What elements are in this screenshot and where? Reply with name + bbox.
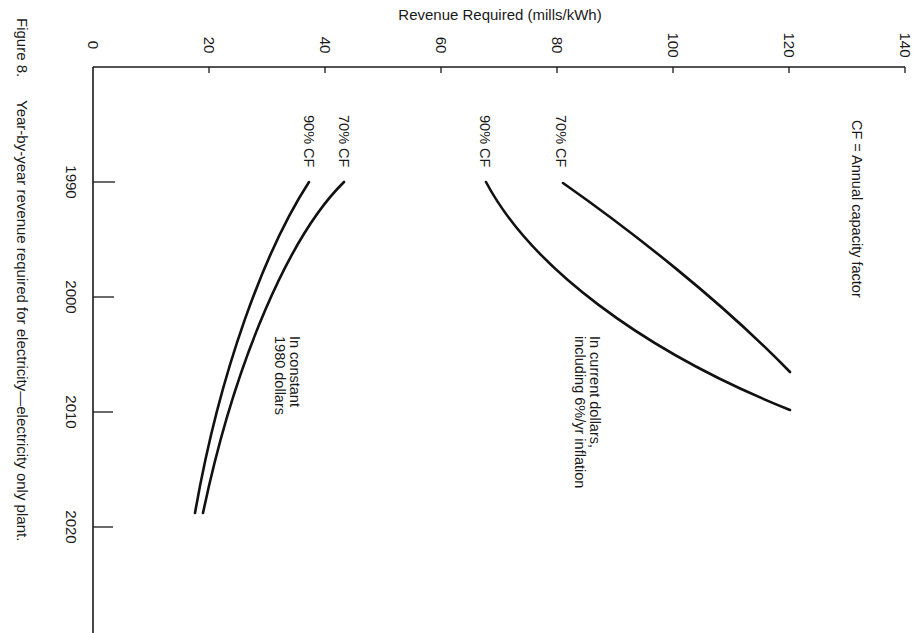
svg-text:140: 140 [897,32,914,57]
svg-text:100: 100 [665,32,682,57]
year-ticks [93,182,115,527]
svg-text:2010: 2010 [63,395,80,428]
annotation-constant-1: In constant [287,336,303,407]
annotation-constant-2: 1980 dollars [272,336,288,415]
svg-text:40: 40 [317,37,334,54]
label-current-90cf: 90% CF [477,115,493,168]
svg-text:60: 60 [433,37,450,54]
label-constant-70cf: 70% CF [336,115,352,168]
revenue-ticks [209,67,905,73]
year-tick-labels: 1990 2000 2010 2020 [63,165,80,543]
legend-note: CF = Annual capacity factor [849,120,865,298]
revenue-tick-labels: 0 20 40 60 80 100 120 140 [85,32,914,57]
label-constant-90cf: 90% CF [301,115,317,168]
chart: Revenue Required (mills/kWh) 0 20 40 60 … [0,0,915,633]
label-current-70cf: 70% CF [553,115,569,168]
annotation-current-2: including 6%/yr inflation [572,336,588,488]
annotation-current-1: In current dollars, [587,336,603,448]
svg-text:120: 120 [781,32,798,57]
figure-number: Figure 8. [14,18,31,77]
figure-caption: Year-by-year revenue required for electr… [14,100,31,541]
y-axis-title: Revenue Required (mills/kWh) [398,6,601,23]
curve-current-90cf [486,182,790,410]
svg-text:0: 0 [85,41,102,49]
svg-text:1990: 1990 [63,165,80,198]
svg-text:80: 80 [549,37,566,54]
svg-text:2020: 2020 [63,510,80,543]
svg-text:20: 20 [201,37,218,54]
svg-text:2000: 2000 [63,280,80,313]
